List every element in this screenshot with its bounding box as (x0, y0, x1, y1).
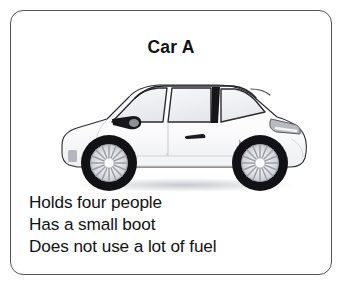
description-list: Holds four people Has a small boot Does … (29, 191, 319, 257)
description-line-3: Does not use a lot of fuel (29, 235, 319, 257)
front-wheel (81, 135, 137, 191)
page-title: Car A (11, 37, 331, 58)
front-lower-panel (68, 150, 77, 162)
rear-spoiler (251, 89, 270, 95)
description-line-2: Has a small boot (29, 213, 319, 235)
description-line-1: Holds four people (29, 191, 319, 213)
car-info-card: Car A (10, 10, 332, 275)
rear-wheel (232, 135, 288, 191)
car-side-profile-image (55, 67, 313, 195)
mirror-glass (129, 119, 139, 127)
front-door-glass (168, 88, 211, 122)
